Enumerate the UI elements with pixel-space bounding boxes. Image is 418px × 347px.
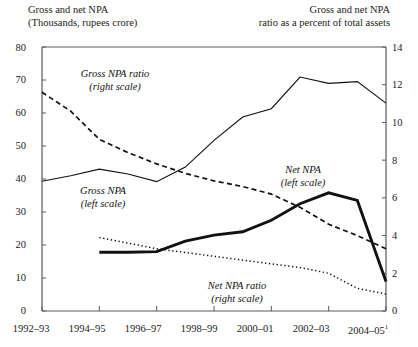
plot-area	[0, 0, 418, 347]
series-net-npa	[99, 193, 386, 282]
series-net-npa-ratio	[99, 237, 386, 294]
series-lines	[42, 77, 386, 294]
chart-container: Gross and net NPA (Thousands, rupees cro…	[0, 0, 418, 347]
series-gross-npa	[42, 77, 386, 182]
axis-lines	[42, 47, 386, 311]
